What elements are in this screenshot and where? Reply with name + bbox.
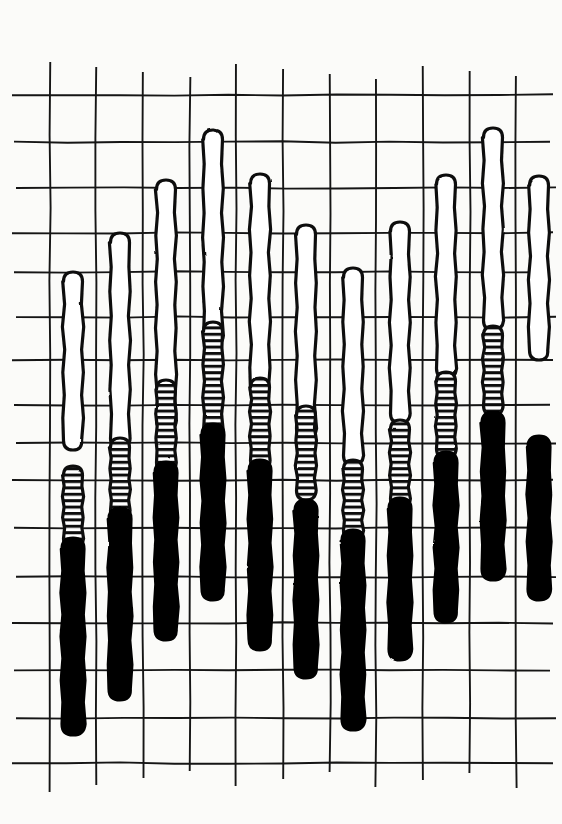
flame-stroke-solid bbox=[388, 498, 412, 660]
flame-stroke-hatch bbox=[250, 378, 271, 470]
flame-design-figure bbox=[0, 0, 562, 824]
flame-stroke-hatch bbox=[482, 326, 503, 415]
grid-vertical-line bbox=[95, 67, 96, 785]
flame-stroke-hatch bbox=[389, 420, 410, 508]
flame-stroke-hatch bbox=[62, 466, 83, 548]
flame-stroke-outline bbox=[435, 175, 456, 378]
grid-vertical-line bbox=[235, 64, 236, 786]
flame-stroke-solid bbox=[61, 538, 85, 735]
flame-stroke-hatch bbox=[203, 322, 224, 440]
flame-stroke-solid bbox=[294, 500, 318, 678]
grid-vertical-line bbox=[189, 77, 190, 771]
grid-vertical-line bbox=[469, 71, 470, 773]
flame-stroke-outline bbox=[482, 128, 503, 330]
flame-design-canvas bbox=[0, 0, 562, 824]
flame-stroke-solid bbox=[341, 530, 365, 730]
flame-stroke-outline bbox=[62, 272, 83, 450]
grid-vertical-line bbox=[49, 62, 50, 792]
flame-stroke-hatch bbox=[343, 460, 364, 540]
flame-stroke-solid bbox=[527, 436, 551, 600]
flame-stroke-outline bbox=[528, 176, 549, 360]
grid-horizontal-line bbox=[16, 718, 556, 719]
flame-stroke-solid bbox=[108, 508, 132, 700]
flame-stroke-outline bbox=[203, 130, 224, 345]
flame-stroke-hatch bbox=[295, 406, 316, 500]
flame-stroke-outline bbox=[342, 268, 363, 465]
flame-stroke-solid bbox=[201, 424, 225, 600]
flame-stroke-outline bbox=[109, 233, 130, 448]
flame-stroke-hatch bbox=[435, 372, 456, 458]
flame-stroke-outline bbox=[389, 222, 410, 423]
grid-vertical-line bbox=[282, 69, 283, 779]
grid-vertical-line bbox=[375, 79, 376, 787]
flame-stroke-solid bbox=[481, 412, 505, 580]
flame-stroke-solid bbox=[434, 452, 458, 622]
flame-stroke-hatch bbox=[156, 380, 177, 472]
flame-stroke-outline bbox=[249, 174, 270, 400]
flame-stroke-solid bbox=[248, 460, 272, 650]
flame-stroke-solid bbox=[154, 462, 178, 640]
